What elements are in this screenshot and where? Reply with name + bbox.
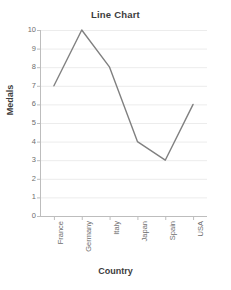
- x-tick-label: France: [57, 221, 65, 244]
- x-axis-title: Country: [0, 266, 231, 276]
- x-tick-label: Italy: [113, 221, 121, 235]
- y-tick-label: 6: [14, 100, 36, 108]
- y-tick-label: 2: [14, 175, 36, 183]
- chart-plot-svg: [40, 30, 207, 216]
- x-tick-label: Spain: [169, 221, 177, 240]
- plot-area: [40, 30, 207, 216]
- y-tick-label: 0: [14, 212, 36, 220]
- x-tick-label: Japan: [141, 221, 149, 241]
- gridlines: [40, 31, 207, 198]
- y-tick-label: 10: [14, 26, 36, 34]
- y-tick-label: 3: [14, 156, 36, 164]
- axis-tick-marks: [37, 31, 194, 221]
- line-chart: Line Chart Medals 012345678910 FranceGer…: [0, 0, 231, 290]
- x-tick-label: USA: [197, 221, 205, 236]
- y-tick-label: 1: [14, 193, 36, 201]
- y-axis-tick-labels: 012345678910: [8, 30, 36, 216]
- x-axis-tick-labels: FranceGermanyItalyJapanSpainUSA: [40, 221, 207, 265]
- y-tick-label: 5: [14, 119, 36, 127]
- y-tick-label: 4: [14, 138, 36, 146]
- x-tick-label: Germany: [85, 221, 93, 252]
- y-tick-label: 9: [14, 45, 36, 53]
- y-tick-label: 8: [14, 63, 36, 71]
- y-tick-label: 7: [14, 82, 36, 90]
- chart-title: Line Chart: [0, 9, 231, 20]
